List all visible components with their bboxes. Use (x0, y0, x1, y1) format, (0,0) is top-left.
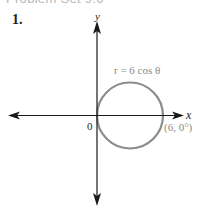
point-label: (6, 0°) (164, 121, 193, 134)
x-axis (8, 112, 184, 120)
y-axis (93, 21, 101, 206)
x-axis-label: x (185, 108, 192, 122)
curve-equation-label: r = 6 cos θ (114, 64, 160, 76)
polar-graph: y x 0 r = 6 cos θ (6, 0°) (0, 0, 205, 209)
y-axis-label: y (94, 10, 100, 22)
origin-label: 0 (87, 120, 93, 132)
